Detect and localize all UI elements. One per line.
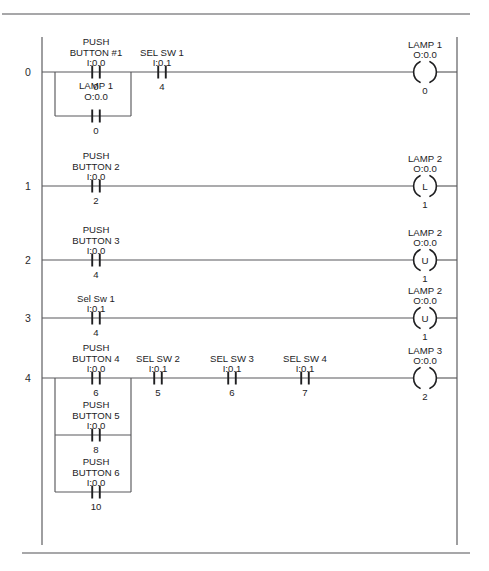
push-button-6-contact-bit: 10	[91, 501, 102, 512]
push-button-3-contact-bit: 4	[93, 269, 99, 280]
lamp-2-unlatch-coil-arc-left	[414, 250, 420, 271]
lamp-1-seal-in-contact-bit: 0	[93, 125, 98, 136]
push-button-4-contact-address: I:0.0	[87, 363, 106, 374]
rung-number-1: 1	[25, 180, 31, 192]
rung-number-0: 0	[25, 66, 31, 78]
lamp-3-coil-label-line1: LAMP 3	[408, 345, 442, 356]
ladder-canvas: 0PUSHBUTTON #1I:0.00SEL SW 1I:0.14LAMP 1…	[0, 0, 489, 571]
push-button-5-contact-address: I:0.0	[87, 420, 106, 431]
sel-sw-1-lowercase-contact-address: I:0.1	[87, 303, 106, 314]
rung-number-4: 4	[25, 372, 31, 384]
sel-sw-2-contact-bit: 5	[155, 387, 160, 398]
sel-sw-3-contact-address: I:0.1	[223, 363, 242, 374]
rung-number-3: 3	[25, 312, 31, 324]
push-button-4-contact-bit: 6	[93, 387, 98, 398]
push-button-2-contact-address: I:0.0	[87, 171, 106, 182]
rung-4: 4PUSHBUTTON 4I:0.06SEL SW 2I:0.15SEL SW …	[25, 342, 457, 512]
rung-0: 0PUSHBUTTON #1I:0.00SEL SW 1I:0.14LAMP 1…	[25, 36, 457, 136]
sel-sw-1-lowercase-contact-bit: 4	[93, 327, 99, 338]
push-button-1-contact-label-line1: PUSH	[83, 36, 110, 47]
lamp-2-latch-coil-bit: 1	[422, 199, 427, 210]
lamp-2-unlatch-coil-bit: 1	[422, 273, 427, 284]
lamp-2-unlatch-coil-2-address: O:0.0	[413, 295, 436, 306]
rung-1: 1PUSHBUTTON 2I:0.02LAMP 2O:0.0L1	[25, 150, 457, 210]
push-button-4-contact-label-line1: PUSH	[83, 342, 110, 353]
lamp-2-latch-coil-symbol: L	[422, 181, 428, 192]
lamp-1-coil-label-line1: LAMP 1	[408, 39, 442, 50]
sel-sw-4-contact-address: I:0.1	[296, 363, 315, 374]
push-button-3-contact-label-line1: PUSH	[83, 224, 110, 235]
lamp-2-unlatch-coil-2-symbol: U	[421, 313, 428, 324]
push-button-5-contact-bit: 8	[93, 444, 98, 455]
lamp-2-unlatch-coil-symbol: U	[421, 255, 428, 266]
push-button-6-contact-label-line1: PUSH	[83, 456, 110, 467]
lamp-1-coil-bit: 0	[422, 85, 427, 96]
push-button-5-contact-label-line1: PUSH	[83, 399, 110, 410]
lamp-2-unlatch-coil-label-line1: LAMP 2	[408, 227, 442, 238]
lamp-2-unlatch-coil-2-arc-left	[414, 308, 420, 329]
ladder-diagram: 0PUSHBUTTON #1I:0.00SEL SW 1I:0.14LAMP 1…	[0, 0, 489, 571]
lamp-2-latch-coil-arc-right	[430, 176, 436, 197]
push-button-2-contact-bit: 2	[93, 195, 98, 206]
lamp-3-coil-arc-left	[414, 368, 420, 389]
rung-3: 3Sel Sw 1I:0.14LAMP 2O:0.0U1	[25, 285, 457, 343]
sel-sw-4-contact-bit: 7	[302, 387, 307, 398]
lamp-2-unlatch-coil-2-arc-right	[430, 308, 436, 329]
lamp-1-coil-address: O:0.0	[413, 49, 436, 60]
rung-number-2: 2	[25, 254, 31, 266]
push-button-3-contact-address: I:0.0	[87, 245, 106, 256]
lamp-1-coil-arc-left	[414, 62, 420, 83]
sel-sw-1-contact-address: I:0.1	[153, 57, 172, 68]
sel-sw-2-contact-address: I:0.1	[149, 363, 168, 374]
lamp-1-coil-arc-right	[430, 62, 436, 83]
push-button-1-contact-address: I:0.0	[87, 57, 106, 68]
lamp-2-latch-coil-label-line1: LAMP 2	[408, 153, 442, 164]
lamp-2-unlatch-coil-2-bit: 1	[422, 331, 427, 342]
sel-sw-3-contact-bit: 6	[229, 387, 234, 398]
sel-sw-1-contact-bit: 4	[159, 81, 165, 92]
lamp-2-latch-coil-arc-left	[414, 176, 420, 197]
lamp-2-unlatch-coil-2-label-line1: LAMP 2	[408, 285, 442, 296]
lamp-3-coil-bit: 2	[422, 391, 427, 402]
lamp-3-coil-address: O:0.0	[413, 355, 436, 366]
lamp-2-unlatch-coil-address: O:0.0	[413, 237, 436, 248]
lamp-1-seal-in-contact-label-line1: LAMP 1	[79, 80, 113, 91]
lamp-2-unlatch-coil-arc-right	[430, 250, 436, 271]
lamp-2-latch-coil-address: O:0.0	[413, 163, 436, 174]
push-button-2-contact-label-line1: PUSH	[83, 150, 110, 161]
rung-2: 2PUSHBUTTON 3I:0.04LAMP 2O:0.0U1	[25, 224, 457, 284]
lamp-1-seal-in-contact-label-line2: O:0.0	[84, 91, 107, 102]
lamp-3-coil-arc-right	[430, 368, 436, 389]
push-button-6-contact-address: I:0.0	[87, 477, 106, 488]
